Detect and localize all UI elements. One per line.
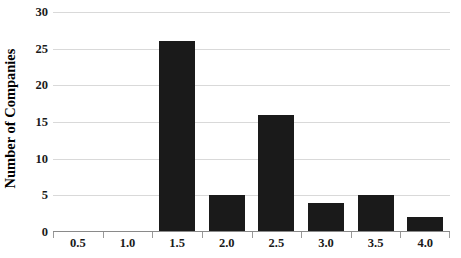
- y-axis-tick-labels: 051015202530: [18, 0, 48, 236]
- y-axis-tick-label: 0: [18, 225, 48, 240]
- y-axis-title-label: Number of Companies: [3, 48, 20, 188]
- bar: [258, 115, 294, 232]
- bar: [209, 195, 245, 232]
- y-axis-tick-label: 15: [18, 115, 48, 130]
- bar-slot: [152, 12, 202, 232]
- y-axis-tick-label: 25: [18, 41, 48, 56]
- bar-slot: [400, 12, 450, 232]
- bar-chart: Number of Companies 051015202530 0.51.01…: [0, 0, 461, 258]
- x-axis-tick-label: 2.0: [219, 236, 235, 251]
- bar-slot: [103, 12, 153, 232]
- x-axis-tick-label: 3.0: [318, 236, 334, 251]
- bar-slot: [202, 12, 252, 232]
- y-axis-tick-label: 20: [18, 78, 48, 93]
- bar-slot: [301, 12, 351, 232]
- x-axis-tick-label: 3.5: [368, 236, 384, 251]
- x-axis-tick-label: 1.5: [169, 236, 185, 251]
- x-axis-tick-label: 2.5: [269, 236, 285, 251]
- bar: [358, 195, 394, 232]
- bars-group: [53, 12, 450, 232]
- y-axis-tick-label: 5: [18, 188, 48, 203]
- y-axis-tick-label: 30: [18, 5, 48, 20]
- bar-slot: [53, 12, 103, 232]
- x-axis-tick-labels: 0.51.01.52.02.53.03.54.0: [53, 236, 450, 258]
- plot-area: [53, 12, 450, 232]
- x-axis-tick-label: 0.5: [70, 236, 86, 251]
- bar-slot: [351, 12, 401, 232]
- x-axis-tick-label: 1.0: [120, 236, 136, 251]
- bar: [159, 41, 195, 232]
- x-axis-tick-label: 4.0: [417, 236, 433, 251]
- bar-slot: [252, 12, 302, 232]
- y-axis-tick-label: 10: [18, 151, 48, 166]
- bar: [308, 203, 344, 232]
